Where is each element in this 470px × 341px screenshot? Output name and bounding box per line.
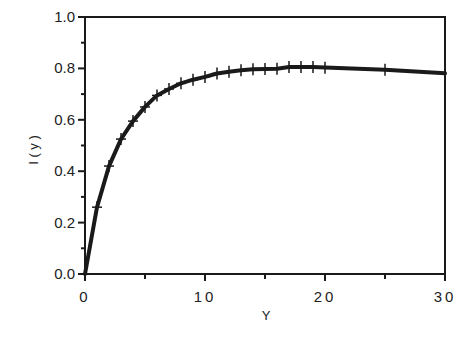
- y-tick-label: 0.8: [54, 59, 75, 76]
- y-tick-label: 0.0: [54, 265, 75, 282]
- y-tick-label: 1.0: [54, 8, 75, 25]
- y-axis-ticks: 0.00.20.40.60.81.0: [54, 8, 85, 282]
- y-tick-label: 0.2: [54, 214, 75, 231]
- y-tick-label: 0.4: [54, 162, 75, 179]
- x-axis-label: Y: [262, 308, 271, 323]
- plot-frame: [85, 17, 445, 274]
- x-tick-label: 0: [79, 288, 90, 305]
- line-chart: 0.00.20.40.60.81.0 0102030 I ( y ) Y: [0, 0, 470, 341]
- y-tick-label: 0.6: [54, 111, 75, 128]
- y-axis-label: I ( y ): [26, 135, 41, 165]
- x-tick-label: 10: [194, 288, 217, 305]
- x-tick-label: 20: [314, 288, 337, 305]
- x-tick-label: 30: [434, 288, 457, 305]
- x-axis-ticks: 0102030: [79, 274, 456, 305]
- series-line: [85, 67, 445, 274]
- data-series: [85, 61, 445, 274]
